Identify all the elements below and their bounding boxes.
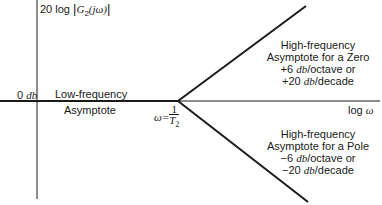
x-axis-label: log ω — [348, 104, 374, 116]
low-frequency-label-line1: Low-frequency — [55, 88, 127, 100]
breakpoint-fraction: 1T2 — [169, 104, 179, 130]
breakpoint-label: ω=1T2 — [154, 104, 179, 130]
zero-db-label: 0 db — [17, 89, 37, 101]
y-axis-label-prefix: 20 log — [40, 3, 73, 15]
y-axis-label: 20 log |G2(jω)| — [40, 3, 110, 20]
zero-asymptote-annotation: High-frequency Asymptote for a Zero +6 d… — [258, 39, 378, 87]
low-frequency-label-line2: Asymptote — [64, 104, 116, 116]
pole-asymptote-annotation: High-frequency Asymptote for a Pole −6 d… — [258, 128, 378, 176]
